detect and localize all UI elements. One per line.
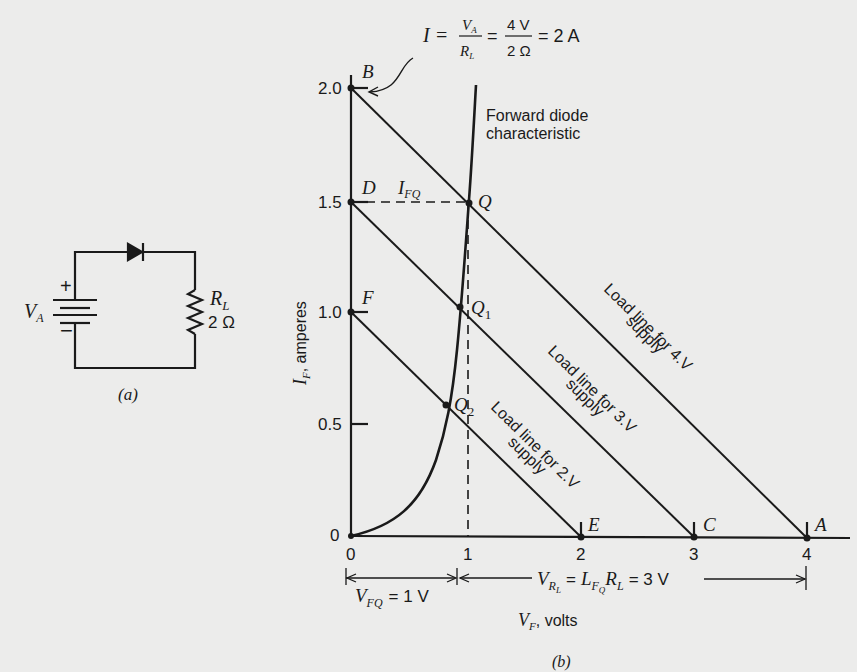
graph-axes bbox=[351, 75, 850, 538]
svg-text:= 2 A: = 2 A bbox=[538, 26, 580, 46]
circuit-diagram bbox=[53, 243, 202, 368]
svg-text:I =: I = bbox=[422, 24, 448, 46]
equation-arrow bbox=[370, 58, 413, 92]
current-equation: I = VA RL = 4 V 2 Ω = 2 A bbox=[422, 16, 580, 61]
svg-text:=: = bbox=[487, 26, 498, 46]
point-label-b: B bbox=[362, 61, 374, 82]
part-a-label: (a) bbox=[118, 385, 138, 404]
x-tick-labels: 0 1 2 3 4 bbox=[346, 545, 811, 564]
load-line-3v-label: Load line for 3.V bbox=[545, 342, 640, 436]
svg-text:2.0: 2.0 bbox=[318, 79, 342, 98]
point-label-f: F bbox=[361, 287, 374, 308]
load-line-2v-label: Load line for 2.V bbox=[488, 398, 583, 492]
point-label-c: C bbox=[703, 514, 716, 535]
part-b-label: (b) bbox=[552, 653, 571, 671]
svg-text:2: 2 bbox=[576, 545, 585, 564]
figure-canvas: + − VA RL 2 Ω (a) bbox=[0, 0, 857, 672]
resistor-label: RL bbox=[209, 287, 229, 313]
load-line-3v bbox=[351, 202, 694, 537]
svg-text:1.5: 1.5 bbox=[318, 193, 342, 212]
svg-text:4: 4 bbox=[802, 545, 811, 564]
point-label-q1: Q1 bbox=[471, 297, 491, 322]
y-tick-labels: 2.0 1.5 1.0 0.5 0 bbox=[318, 79, 342, 545]
resistor-icon bbox=[188, 290, 202, 334]
source-label: VA bbox=[24, 300, 44, 325]
svg-text:0.5: 0.5 bbox=[318, 415, 342, 434]
svg-text:3: 3 bbox=[689, 545, 698, 564]
svg-text:2 Ω: 2 Ω bbox=[507, 42, 531, 59]
point-label-e: E bbox=[587, 514, 600, 535]
load-line-4v bbox=[351, 88, 807, 538]
ifq-label: IFQ bbox=[397, 177, 421, 201]
vrl-label: VRL=LFQRL= 3 V bbox=[537, 568, 669, 595]
y-axis-label: IF, amperes bbox=[290, 301, 312, 386]
point-label-a: A bbox=[813, 514, 827, 535]
plus-sign: + bbox=[60, 275, 72, 297]
minus-sign: − bbox=[60, 318, 73, 343]
diode-label-line1: Forward diode bbox=[486, 107, 588, 124]
svg-text:1: 1 bbox=[463, 545, 472, 564]
vfq-label: VFQ= 1 V bbox=[355, 585, 429, 610]
diode-characteristic-curve bbox=[351, 85, 476, 536]
svg-text:1.0: 1.0 bbox=[318, 303, 342, 322]
resistor-value: 2 Ω bbox=[208, 313, 235, 332]
svg-text:VA: VA bbox=[462, 17, 477, 35]
point-label-q: Q bbox=[478, 191, 492, 212]
point-label-d: D bbox=[361, 177, 376, 198]
diode-label-line2: characteristic bbox=[486, 125, 580, 142]
diode-icon bbox=[128, 244, 142, 260]
svg-text:0: 0 bbox=[330, 526, 339, 545]
svg-text:RL: RL bbox=[459, 43, 474, 61]
x-axis-label: VF, volts bbox=[518, 610, 578, 632]
svg-text:4 V: 4 V bbox=[507, 16, 530, 33]
load-lines bbox=[351, 88, 807, 538]
svg-text:0: 0 bbox=[346, 545, 355, 564]
load-line-2v bbox=[351, 312, 581, 537]
